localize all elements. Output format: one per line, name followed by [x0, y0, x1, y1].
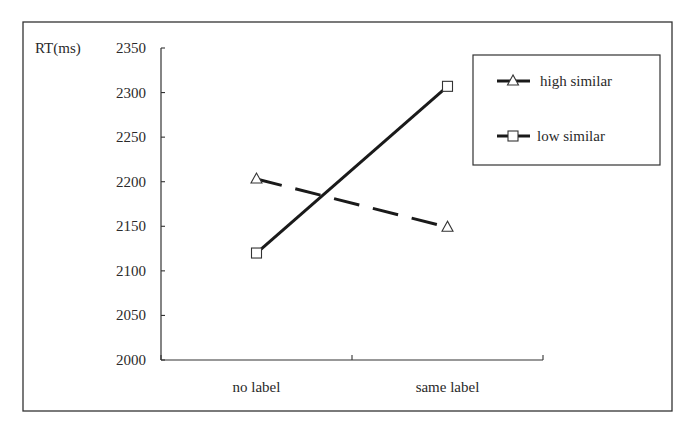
series-layer — [251, 81, 453, 258]
series-line — [257, 179, 448, 227]
x-axis-ticks: no labelsame label — [161, 355, 543, 395]
legend: high similarlow similar — [473, 55, 660, 165]
y-tick-label: 2000 — [116, 352, 146, 368]
square-marker-icon — [443, 81, 453, 91]
series-line — [257, 86, 448, 253]
y-axis-ticks: 20002050210021502200225023002350RT(ms) — [35, 40, 165, 368]
y-tick-label: 2150 — [116, 218, 146, 234]
y-tick-label: 2300 — [116, 85, 146, 101]
y-tick-label: 2200 — [116, 174, 146, 190]
triangle-marker-icon — [251, 173, 262, 183]
series-low-similar — [252, 81, 453, 258]
y-tick-label: 2350 — [116, 40, 146, 56]
legend-label: high similar — [540, 73, 612, 89]
square-legend-icon — [508, 131, 518, 141]
x-tick-label: same label — [416, 379, 480, 395]
legend-box — [473, 55, 660, 165]
square-marker-icon — [252, 248, 262, 258]
y-tick-label: 2050 — [116, 307, 146, 323]
y-tick-label: 2100 — [116, 263, 146, 279]
triangle-marker-icon — [442, 221, 453, 231]
series-high-similar — [251, 173, 453, 231]
y-tick-label: 2250 — [116, 129, 146, 145]
x-tick-label: no label — [233, 379, 281, 395]
legend-label: low similar — [537, 128, 605, 144]
chart: 20002050210021502200225023002350RT(ms) n… — [0, 0, 699, 435]
y-axis-title: RT(ms) — [35, 40, 81, 57]
